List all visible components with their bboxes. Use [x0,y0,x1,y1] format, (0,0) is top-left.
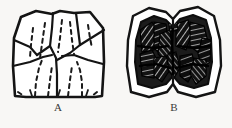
figure-panel-b: B [116,0,232,128]
figure-panel-a: A [0,0,116,128]
figure-plate: A [0,0,232,128]
tooth-outline-a [13,11,104,97]
panel-a-caption: A [0,101,116,114]
panel-a-drawing [0,0,116,104]
panel-b-caption: B [116,101,232,114]
panel-b-drawing [116,0,232,104]
